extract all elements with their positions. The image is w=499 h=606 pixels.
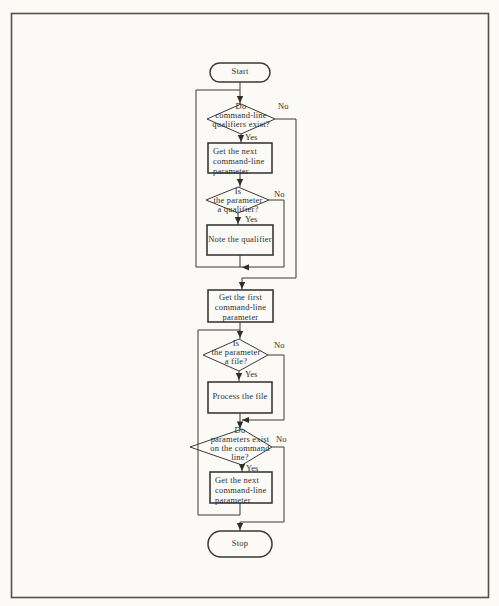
arrow-into-decision3 <box>237 331 243 338</box>
no-label-3: No <box>274 340 284 350</box>
arrow-merge-loop2 <box>242 417 249 423</box>
decision-parameters-exist-label: Do parameters exist on the command line? <box>185 426 295 462</box>
start-terminal-label: Start <box>210 67 270 77</box>
yes-label-2: Yes <box>245 214 257 224</box>
stop-terminal-label: Stop <box>208 539 272 549</box>
arrow-into-box1 <box>238 135 244 142</box>
arrow-into-box4 <box>236 373 242 380</box>
arrow-into-box3 <box>239 282 245 289</box>
process-process-file-label: Process the file <box>208 392 272 402</box>
yes-label-4: Yes <box>246 463 258 473</box>
no-label-2: No <box>274 189 284 199</box>
process-get-next-parameter-1-label: Get the next command-line parameter <box>213 146 271 176</box>
arrow-into-decision2 <box>237 179 243 186</box>
decision-parameter-is-qualifier-label: Is the parameter a qualifier? <box>192 187 284 214</box>
process-note-qualifier-label: Note the qualifier <box>207 235 273 245</box>
arrow-into-stop <box>237 523 243 530</box>
decision-parameter-is-file-label: Is the parameter a file? <box>190 339 282 366</box>
yes-label-3: Yes <box>245 369 257 379</box>
arrow-merge-loop1 <box>242 264 249 270</box>
decision-qualifiers-exist-label: Do command-line qualifiers exist? <box>196 102 286 129</box>
arrow-into-box2 <box>235 217 241 224</box>
no-label-4: No <box>276 434 286 444</box>
process-get-first-parameter-label: Get the first command-line parameter <box>208 292 273 322</box>
process-get-next-parameter-2-label: Get the next command-line parameter <box>215 475 271 505</box>
no-label-1: No <box>278 101 288 111</box>
yes-label-1: Yes <box>245 132 257 142</box>
scanned-page: Start Do command-line qualifiers exist? … <box>0 0 499 606</box>
